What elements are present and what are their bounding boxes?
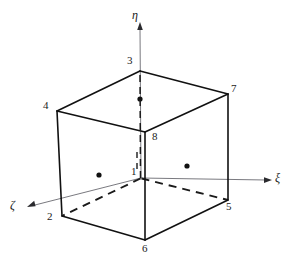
edge-6-5 [145, 200, 228, 240]
xi-axis-arrowhead [264, 177, 272, 183]
xi-axis-line [141, 178, 266, 180]
edge-7-8 [145, 94, 228, 132]
node-label-4: 4 [43, 100, 49, 111]
edge-2-6 [62, 216, 145, 240]
edge-4-2 [57, 111, 62, 216]
eta-axis-arrowhead [137, 22, 143, 30]
edge-3-7 [140, 71, 228, 94]
axis-label-zeta: ζ [10, 199, 15, 211]
node-label-2: 2 [47, 211, 53, 222]
axes-group [27, 22, 272, 207]
axis-label-xi: ξ [275, 172, 280, 184]
axis-label-eta: η [132, 9, 138, 21]
hidden-edge-1-5 [142, 179, 229, 201]
xi-axis-point [184, 163, 189, 168]
visible-edges-group [57, 71, 228, 240]
zeta-axis-point [96, 172, 101, 177]
node-label-3: 3 [127, 55, 133, 66]
hidden-edge-1-3 [140, 71, 141, 178]
node-label-7: 7 [231, 83, 237, 94]
zeta-axis-arrowhead [27, 201, 36, 207]
edge-8-4 [57, 111, 145, 132]
hexahedron-figure: 1 2 3 4 5 6 7 8 ξ η ζ [0, 0, 291, 268]
node-label-6: 6 [142, 243, 148, 254]
node-label-8: 8 [152, 131, 158, 142]
node-label-5: 5 [226, 201, 232, 212]
node-label-1: 1 [131, 166, 137, 177]
edge-4-3 [57, 71, 140, 111]
hidden-edge-1-2 [62, 179, 141, 217]
hexahedron-svg [0, 0, 291, 268]
zeta-axis-line [33, 178, 141, 206]
